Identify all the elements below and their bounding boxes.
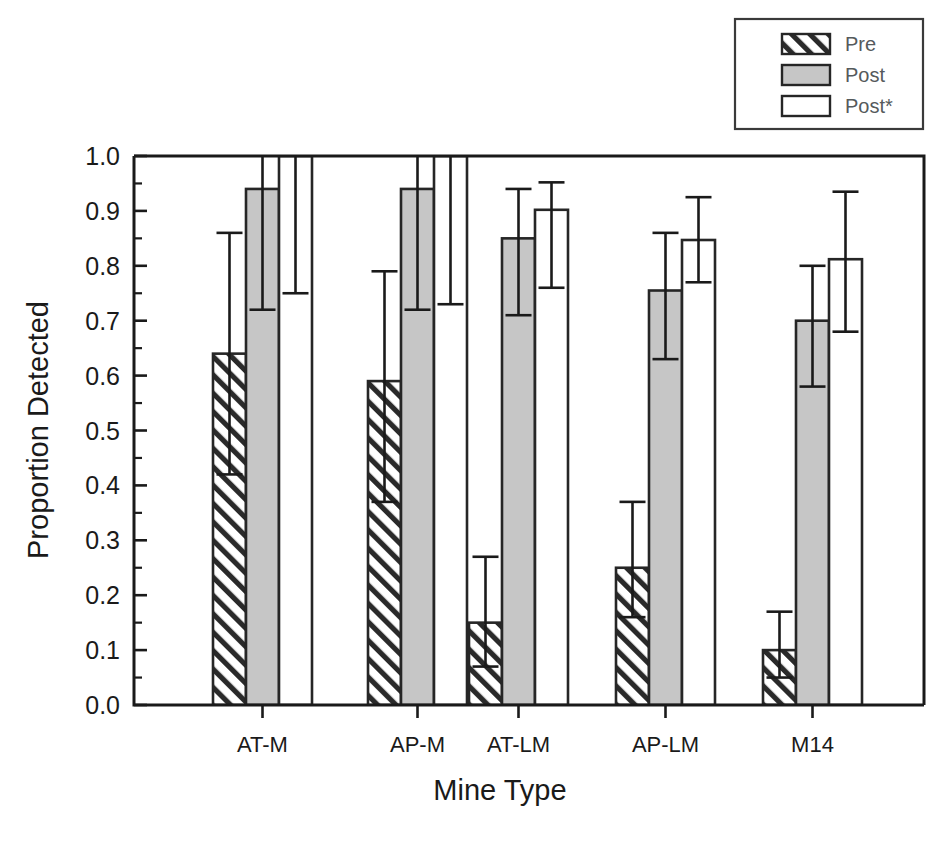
- y-tick-label: 0.6: [85, 362, 120, 390]
- y-tick-label: 0.2: [85, 581, 120, 609]
- x-axis-category-labels: AT-MAP-MAT-LMAP-LMM14: [237, 732, 834, 757]
- x-axis-title: Mine Type: [433, 774, 566, 806]
- bar-chart-figure: Proportion Detected Mine Type 0.00.10.20…: [0, 0, 944, 848]
- legend-label-post-star: Post*: [845, 95, 893, 117]
- y-tick-label: 0.4: [85, 471, 120, 499]
- y-axis-ticks: [134, 156, 147, 705]
- y-tick-label: 0.8: [85, 252, 120, 280]
- y-axis-title-text: Proportion Detected: [22, 301, 54, 559]
- bar-ap-lm-post-star: [682, 240, 715, 705]
- y-tick-label: 0.7: [85, 307, 120, 335]
- y-tick-label: 0.3: [85, 526, 120, 554]
- x-category-label-at-lm: AT-LM: [487, 732, 550, 757]
- bars-layer: [213, 156, 862, 705]
- x-axis-title-text: Mine Type: [433, 774, 566, 806]
- legend: PrePostPost*: [735, 19, 923, 129]
- y-tick-label: 0.0: [85, 691, 120, 719]
- legend-gray-swatch: [782, 65, 830, 85]
- y-axis-title: Proportion Detected: [22, 301, 54, 559]
- y-tick-label: 0.1: [85, 636, 120, 664]
- chart-canvas: Proportion Detected Mine Type 0.00.10.20…: [0, 0, 944, 848]
- x-category-label-m14: M14: [791, 732, 834, 757]
- x-category-label-ap-lm: AP-LM: [632, 732, 699, 757]
- y-tick-label: 0.5: [85, 417, 120, 445]
- legend-hatch-swatch: [782, 34, 830, 54]
- legend-white-swatch: [782, 96, 830, 116]
- legend-label-post: Post: [845, 64, 885, 86]
- x-axis-ticks: [263, 705, 813, 718]
- y-tick-label: 0.9: [85, 197, 120, 225]
- legend-label-pre: Pre: [845, 33, 876, 55]
- x-category-label-at-m: AT-M: [237, 732, 288, 757]
- y-axis-tick-labels: 0.00.10.20.30.40.50.60.70.80.91.0: [85, 142, 120, 719]
- x-category-label-ap-m: AP-M: [390, 732, 445, 757]
- y-tick-label: 1.0: [85, 142, 120, 170]
